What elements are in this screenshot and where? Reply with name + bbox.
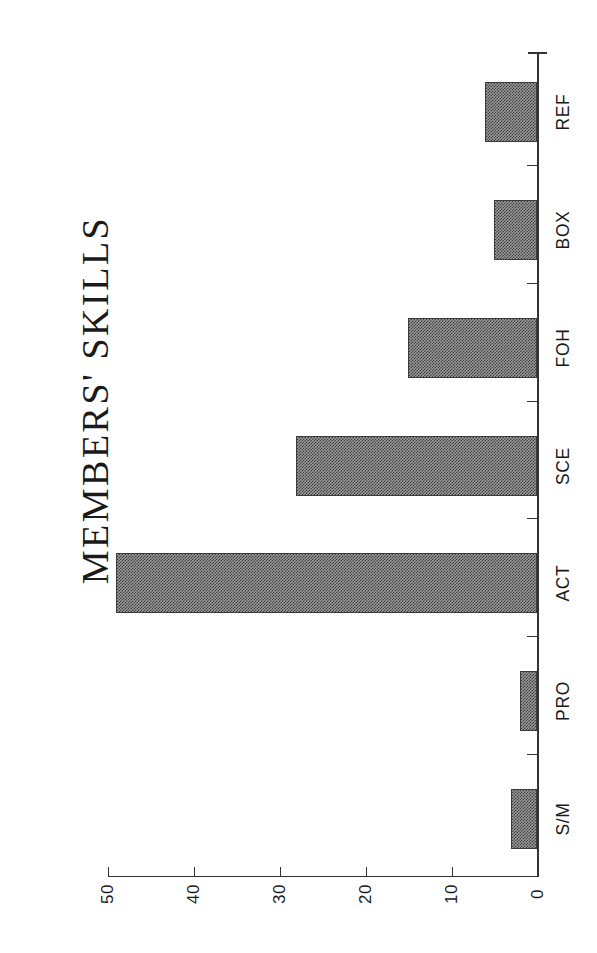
category-label-BOX: BOX: [553, 195, 574, 265]
plot-area: 50 40 30 20 10 0 REF BOX FOH SCE ACT PRO…: [0, 0, 597, 953]
category-tick-3: [527, 518, 538, 519]
bar-ACT: [116, 553, 537, 613]
bar-REF: [485, 82, 537, 142]
category-label-FOH: FOH: [553, 313, 574, 383]
category-tick-0: [527, 165, 538, 166]
category-label-SCE: SCE: [553, 431, 574, 501]
value-tick-label-40: 40: [184, 874, 204, 914]
value-tick-label-20: 20: [356, 874, 376, 914]
category-label-REF: REF: [553, 77, 574, 147]
category-tick-1: [527, 283, 538, 284]
bar-SCE: [296, 436, 537, 496]
value-axis-line: [108, 876, 538, 877]
category-axis-cap-tick: [528, 52, 547, 54]
value-tick-label-10: 10: [442, 874, 462, 914]
bar-FOH: [408, 318, 537, 378]
value-tick-label-0: 0: [528, 874, 548, 914]
bar-BOX: [494, 200, 537, 260]
category-label-PRO: PRO: [553, 666, 574, 736]
category-tick-5: [527, 754, 538, 755]
bar-PRO: [520, 671, 537, 731]
category-label-S-M: S/M: [553, 784, 574, 854]
category-tick-4: [527, 636, 538, 637]
category-tick-2: [527, 401, 538, 402]
category-label-ACT: ACT: [553, 548, 574, 618]
value-tick-label-50: 50: [98, 874, 118, 914]
chart-figure: MEMBERS' SKILLS 50 40 30 20 10 0: [0, 0, 597, 953]
value-tick-label-30: 30: [270, 874, 290, 914]
bar-S/M: [511, 789, 537, 849]
